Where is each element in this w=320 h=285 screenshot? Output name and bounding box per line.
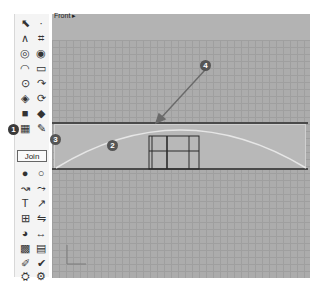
solid-tools-icon[interactable]: ◆	[34, 106, 48, 120]
ellipse-icon[interactable]: ◉	[34, 46, 48, 60]
join-button[interactable]: Join	[17, 150, 47, 162]
fillet-curve-icon[interactable]: ↷	[34, 76, 48, 90]
scale-icon[interactable]: ↗	[34, 196, 48, 210]
analyze-icon[interactable]: ✐	[18, 256, 32, 270]
callout-4: 4	[200, 60, 211, 71]
select-arrow-icon[interactable]: ⬉	[18, 16, 32, 30]
transform-icon[interactable]: T	[18, 196, 32, 210]
callout-1: 1	[8, 124, 19, 135]
polygon-icon[interactable]: ⊙	[18, 76, 32, 90]
front-viewport[interactable]: Front ▸	[52, 14, 310, 278]
check-icon[interactable]: ✔	[34, 256, 48, 270]
block-rectangles	[149, 136, 199, 169]
axis-icon	[67, 245, 86, 264]
rebuild-icon[interactable]: ⤳	[34, 181, 48, 195]
point-icon[interactable]: ·	[34, 16, 48, 30]
boolean-union-icon[interactable]: ●	[18, 166, 32, 180]
layer-icon[interactable]: ▤	[34, 241, 48, 255]
arc-icon[interactable]: ◠	[18, 61, 32, 75]
revolve-icon[interactable]: ⟳	[34, 91, 48, 105]
explode-icon[interactable]: ✎	[34, 121, 48, 135]
properties-icon[interactable]: ⛭	[18, 269, 32, 283]
mesh-icon[interactable]: ▦	[18, 121, 32, 135]
geometry-overlay	[52, 14, 310, 278]
circle-icon[interactable]: ◎	[18, 46, 32, 60]
grid-array-icon[interactable]: ▩	[18, 241, 32, 255]
dimension-icon[interactable]: ↔	[34, 226, 48, 240]
array-icon[interactable]: ⊞	[18, 211, 32, 225]
curve-tools-icon[interactable]: ↝	[18, 181, 32, 195]
polyline-icon[interactable]: ∧	[18, 31, 32, 45]
surface-icon[interactable]: ◈	[18, 91, 32, 105]
callout-3: 3	[50, 134, 61, 145]
rectangle-icon[interactable]: ▭	[34, 61, 48, 75]
mirror-icon[interactable]: ⇋	[34, 211, 48, 225]
control-point-curve-icon[interactable]: ⌗	[34, 31, 48, 45]
options-icon[interactable]: ⚙	[34, 269, 48, 283]
render-icon[interactable]: ◕	[18, 226, 32, 240]
boolean-difference-icon[interactable]: ○	[34, 166, 48, 180]
box-solid-icon[interactable]: ■	[18, 106, 32, 120]
callout-2: 2	[107, 140, 118, 151]
rhino-toolbar: ⬉·∧⌗◎◉◠▭⊙↷◈⟳■◆▦✎●○↝⤳T↗⊞⇋◕↔▩▤✐✔⛭⚙Join	[14, 14, 49, 277]
arrow-pointer	[156, 70, 205, 123]
